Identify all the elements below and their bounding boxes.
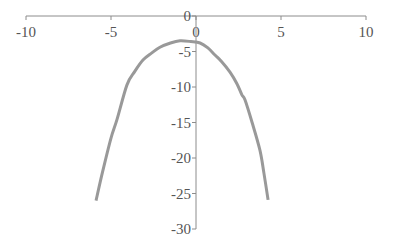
y-tick-label: -10	[171, 79, 191, 95]
chart: -10-50510 0-5-10-15-20-25-30	[0, 0, 397, 247]
y-tick-label: -25	[171, 186, 191, 202]
y-tick-label: -20	[171, 150, 191, 166]
x-tick-label: -5	[105, 24, 118, 40]
x-tick-label: 10	[359, 24, 374, 40]
x-axis: -10-50510	[16, 16, 374, 40]
x-tick-label: 5	[277, 24, 285, 40]
y-tick-label: -5	[179, 44, 192, 60]
x-tick-label: -10	[16, 24, 36, 40]
y-tick-label: 0	[184, 8, 192, 24]
y-tick-label: -15	[171, 115, 191, 131]
y-tick-label: -30	[171, 221, 191, 237]
